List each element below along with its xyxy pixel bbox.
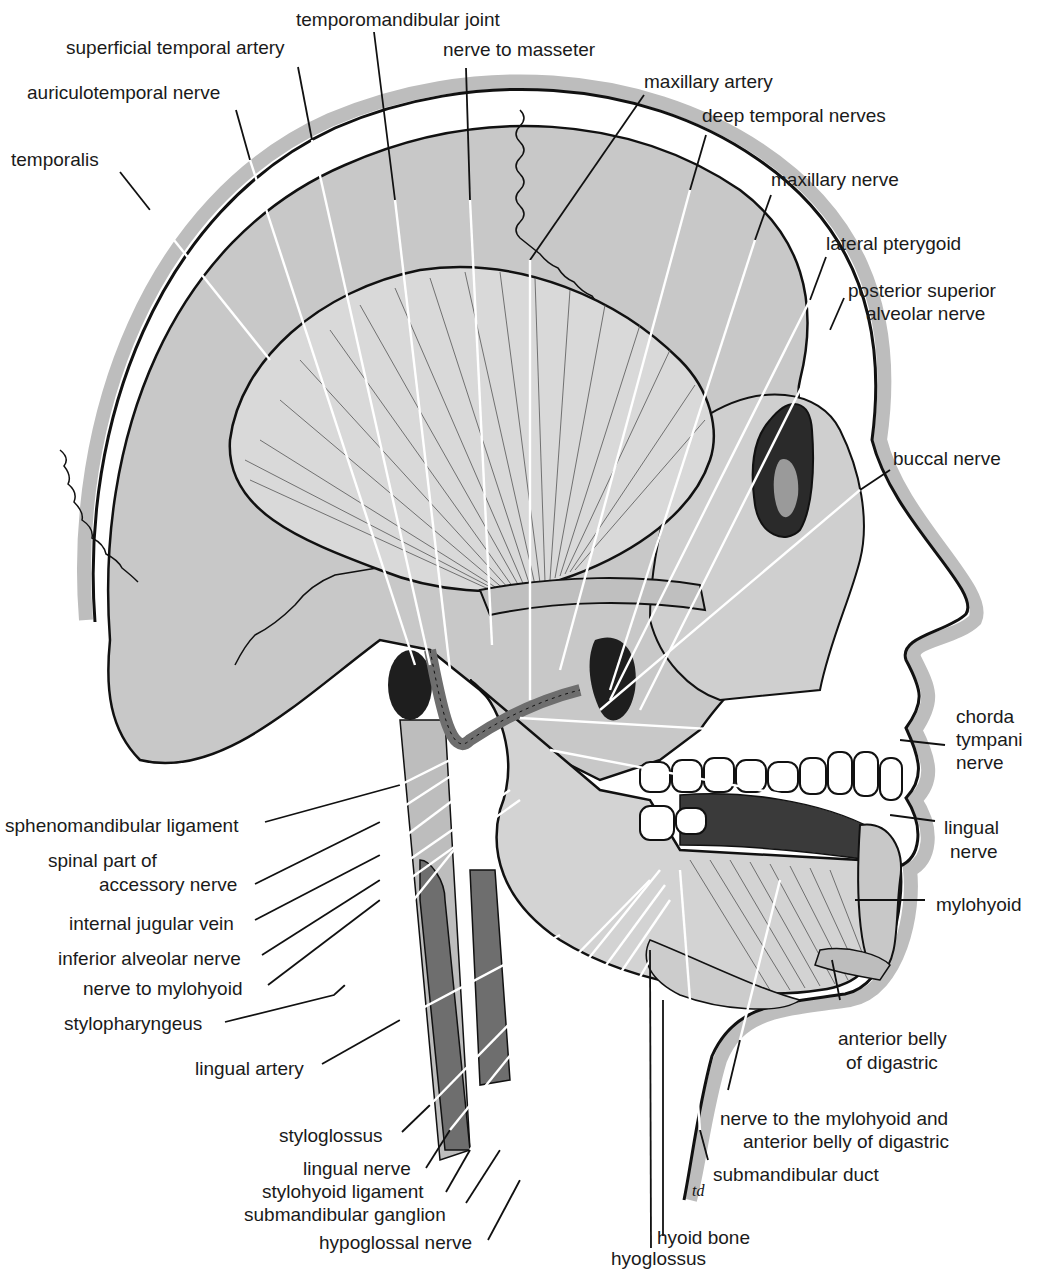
label-stylohyoid-ligament: stylohyoid ligament [262, 1181, 424, 1202]
label-maxillary-nerve: maxillary nerve [771, 169, 899, 190]
label-hyoid-bone: hyoid bone [657, 1227, 750, 1248]
label-anterior-belly-of-digastric: anterior belly of digastric [838, 1028, 952, 1073]
artist-initials: td [692, 1182, 705, 1199]
label-superficial-temporal-artery: superficial temporal artery [66, 37, 285, 58]
label-submandibular-duct: submandibular duct [713, 1164, 880, 1185]
label-lingual-nerve-bottom: lingual nerve [303, 1158, 411, 1179]
label-chorda-tympani-nerve: chorda tympani nerve [956, 706, 1028, 773]
lower-teeth [640, 806, 706, 840]
label-stylopharyngeus: stylopharyngeus [64, 1013, 202, 1034]
label-mylohyoid: mylohyoid [936, 894, 1022, 915]
label-temporalis: temporalis [11, 149, 99, 170]
label-temporomandibular-joint: temporomandibular joint [296, 9, 501, 30]
tongue-region [680, 794, 875, 860]
label-internal-jugular-vein: internal jugular vein [69, 913, 234, 934]
label-nerve-to-mylohyoid-and-anterior-belly: nerve to the mylohyoid and anterior bell… [720, 1108, 953, 1152]
label-hypoglossal-nerve: hypoglossal nerve [319, 1232, 472, 1253]
external-acoustic-meatus [388, 650, 432, 720]
label-maxillary-artery: maxillary artery [644, 71, 773, 92]
label-lingual-artery: lingual artery [195, 1058, 304, 1079]
label-inferior-alveolar-nerve: inferior alveolar nerve [58, 948, 241, 969]
label-nerve-to-masseter: nerve to masseter [443, 39, 596, 60]
label-styloglossus: styloglossus [279, 1125, 383, 1146]
label-sphenomandibular-ligament: sphenomandibular ligament [5, 815, 239, 836]
label-lateral-pterygoid: lateral pterygoid [826, 233, 961, 254]
label-hyoglossus: hyoglossus [611, 1248, 706, 1269]
label-nerve-to-mylohyoid: nerve to mylohyoid [83, 978, 242, 999]
label-spinal-part-of-accessory-nerve: spinal part of accessory nerve [48, 850, 237, 895]
label-deep-temporal-nerves: deep temporal nerves [702, 105, 886, 126]
label-lingual-nerve-right: lingual nerve [944, 817, 1004, 862]
label-auriculotemporal-nerve: auriculotemporal nerve [27, 82, 220, 103]
label-submandibular-ganglion: submandibular ganglion [244, 1204, 446, 1225]
carotid-vessel [470, 870, 510, 1085]
label-buccal-nerve: buccal nerve [893, 448, 1001, 469]
anatomical-figure: td [0, 0, 1041, 1282]
